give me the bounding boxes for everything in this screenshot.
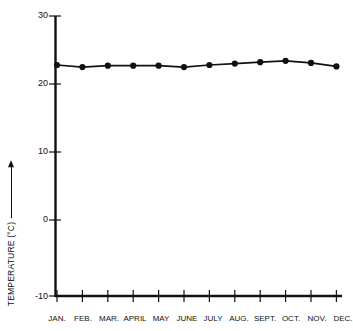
data-point (283, 58, 289, 64)
data-point (232, 61, 238, 67)
series-line (57, 61, 336, 67)
data-point (105, 63, 111, 69)
plot-area (0, 0, 353, 331)
data-point (257, 59, 263, 65)
axis-lines (55, 16, 342, 297)
data-point (308, 60, 314, 66)
data-point (156, 63, 162, 69)
data-point (333, 63, 339, 69)
data-point (130, 63, 136, 69)
data-point (54, 62, 60, 68)
series-markers (54, 58, 340, 70)
temperature-line-chart: TEMPERATURE (°C) 30 20 10 0 -10 JAN. FEB… (0, 0, 353, 331)
data-point (206, 62, 212, 68)
data-point (181, 64, 187, 70)
data-point (79, 64, 85, 70)
